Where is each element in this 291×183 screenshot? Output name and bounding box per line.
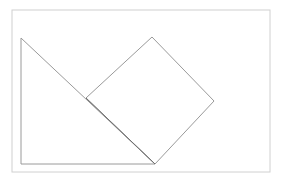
geometry-figure (0, 0, 291, 183)
square-diamond-shape (86, 37, 214, 164)
figure-canvas (0, 0, 291, 183)
outer-border-rect (12, 10, 270, 172)
shared-hypotenuse-segment-line (86, 98, 155, 164)
